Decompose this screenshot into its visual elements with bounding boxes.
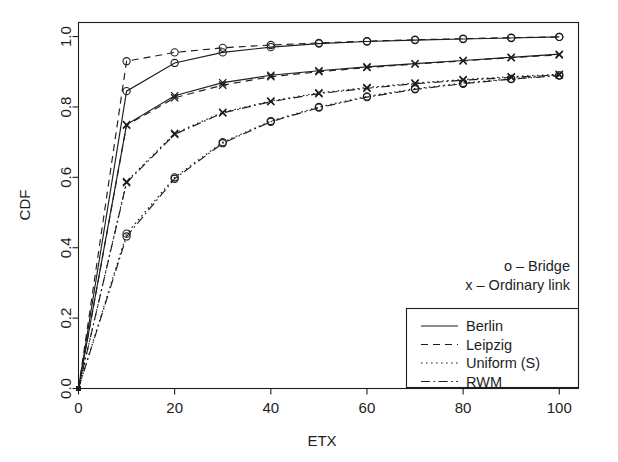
y-tick-label: 1.0 [57,26,74,47]
legend-label: Uniform (S) [466,355,540,371]
x-axis-title: ETX [307,432,336,449]
x-tick-label: 20 [166,399,183,416]
y-axis-title: CDF [16,190,33,221]
y-tick-label: 0.2 [57,308,74,329]
cdf-chart-figure: 0.00.20.40.60.81.0 020406080100 CDF ETX … [0,0,618,462]
x-tick-label: 100 [547,399,572,416]
x-tick-label: 80 [455,399,472,416]
x-tick-label: 60 [359,399,376,416]
y-tick-label: 0.6 [57,167,74,188]
chart-canvas: 0.00.20.40.60.81.0 020406080100 CDF ETX … [0,0,618,462]
x-tick-label: 0 [74,399,82,416]
marker-legend-item: x – Ordinary link [465,277,571,293]
legend-label: Berlin [466,318,503,334]
marker-legend-item: o – Bridge [504,258,570,274]
y-tick-label: 0.8 [57,97,74,118]
x-tick-label: 40 [262,399,279,416]
legend-label: RWM [466,374,502,390]
y-tick-label: 0.4 [57,237,74,258]
legend-label: Leipzig [466,337,512,353]
y-tick-label: 0.0 [57,378,74,399]
chart-background [0,0,618,462]
origin-marker [76,386,81,391]
